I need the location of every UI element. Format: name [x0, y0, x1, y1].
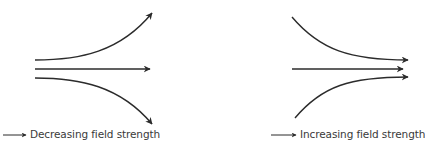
- field-line-bottom-arrow: [35, 78, 152, 124]
- field-line-bottom-arrow: [295, 77, 408, 118]
- diverging-field-lines: [35, 13, 152, 124]
- field-line-top-arrow: [35, 13, 152, 60]
- field-line-top-arrow: [292, 17, 408, 60]
- legend-label-increasing: Increasing field strength: [300, 128, 425, 140]
- converging-field-lines: [292, 17, 408, 118]
- legend-label-decreasing: Decreasing field strength: [30, 128, 160, 140]
